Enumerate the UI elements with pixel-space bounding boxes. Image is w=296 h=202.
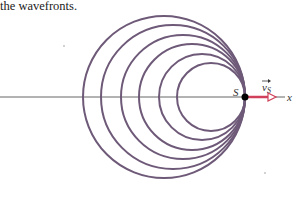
speck xyxy=(63,45,65,47)
axis-label: x xyxy=(286,91,292,103)
source-label: S xyxy=(233,86,239,98)
doppler-wavefront-diagram: S vS x xyxy=(0,0,296,202)
vector-arrow-icon xyxy=(268,79,271,83)
velocity-label: vS xyxy=(262,81,271,95)
source-point xyxy=(242,94,249,101)
speck xyxy=(264,172,266,174)
